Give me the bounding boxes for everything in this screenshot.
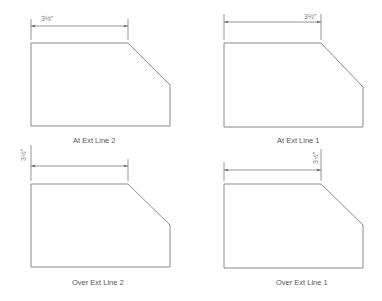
arrowhead-left-icon	[224, 169, 228, 171]
panel-at-ext-line-2: 3½" At Ext Line 2	[31, 15, 170, 145]
dimension-text: 3½"	[20, 148, 27, 161]
panel-at-ext-line-1: 3½" At Ext Line 1	[224, 13, 363, 145]
arrowhead-left-icon	[31, 25, 35, 27]
chamfered-shape-outline	[31, 43, 170, 126]
arrowhead-right-icon	[317, 21, 321, 23]
panel-over-ext-line-1: 3½" Over Ext Line 1	[224, 149, 363, 287]
chamfered-shape-outline	[31, 184, 170, 267]
dimension-text: 3½"	[41, 15, 54, 22]
panel-caption: At Ext Line 2	[73, 136, 116, 145]
dimension-text: 3½"	[304, 13, 317, 20]
panel-caption: Over Ext Line 2	[72, 278, 124, 287]
panel-caption: Over Ext Line 1	[276, 278, 328, 287]
panel-over-ext-line-2: 3½" Over Ext Line 2	[20, 145, 170, 287]
chamfered-shape-outline	[224, 184, 363, 268]
panel-caption: At Ext Line 1	[277, 136, 320, 145]
arrowhead-right-icon	[124, 165, 128, 167]
chamfered-shape-outline	[224, 43, 363, 127]
arrowhead-left-icon	[31, 165, 35, 167]
dimension-text: 3½"	[312, 151, 319, 164]
dimension-text-placement-diagram: 3½" At Ext Line 2 3½" At Ext Line 1 3½" …	[0, 0, 382, 301]
arrowhead-left-icon	[224, 21, 228, 23]
arrowhead-right-icon	[124, 25, 128, 27]
arrowhead-right-icon	[317, 169, 321, 171]
